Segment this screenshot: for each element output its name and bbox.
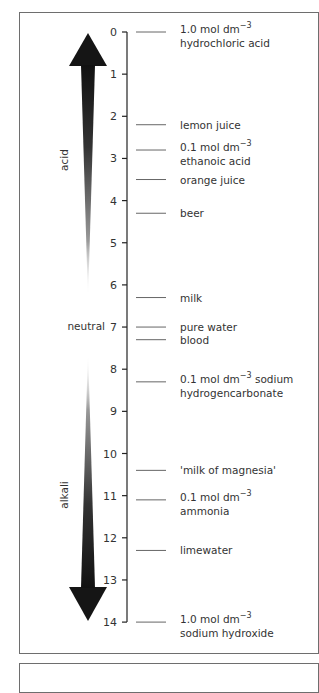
- tick-label: 12: [103, 532, 117, 545]
- ph-example-item: 1.0 mol dm−3sodium hydroxide: [136, 611, 274, 639]
- example-label: lemon juice: [180, 119, 241, 131]
- example-label: milk: [180, 292, 203, 304]
- example-label: 1.0 mol dm−3: [180, 21, 252, 35]
- ph-example-item: 0.1 mol dm−3ethanoic acid: [136, 139, 252, 167]
- tick-label: 14: [103, 616, 117, 629]
- tick-label: 7: [110, 321, 117, 334]
- example-label-line2: hydrochloric acid: [180, 37, 270, 49]
- tick-label: 2: [110, 110, 117, 123]
- ph-example-item: beer: [136, 207, 205, 219]
- example-label: beer: [180, 207, 205, 219]
- tick-label: 8: [110, 363, 117, 376]
- tick-label: 1: [110, 68, 117, 81]
- example-label-line2: hydrogencarbonate: [180, 387, 283, 399]
- tick-label: 10: [103, 448, 117, 461]
- ph-example-item: 0.1 mol dm−3 sodiumhydrogencarbonate: [136, 371, 293, 399]
- tick-label: 9: [110, 405, 117, 418]
- ph-example-item: 0.1 mol dm−3ammonia: [136, 489, 252, 517]
- example-label-line2: sodium hydroxide: [180, 627, 274, 639]
- alkali-arrow-icon: [69, 350, 107, 621]
- ph-example-item: lemon juice: [136, 119, 241, 131]
- tick-label: 4: [110, 195, 117, 208]
- example-label: 0.1 mol dm−3: [180, 139, 252, 153]
- acid-arrow-icon: [69, 33, 107, 300]
- tick-label: 0: [110, 26, 117, 39]
- alkali-label: alkali: [58, 481, 70, 509]
- tick-label: 13: [103, 574, 117, 587]
- example-label: blood: [180, 334, 209, 346]
- ph-example-item: 'milk of magnesia': [136, 464, 276, 476]
- tick-label: 5: [110, 237, 117, 250]
- example-label: 0.1 mol dm−3 sodium: [180, 371, 293, 385]
- example-label-line2: ethanoic acid: [180, 155, 251, 167]
- tick-label: 11: [103, 490, 117, 503]
- ph-example-item: orange juice: [136, 174, 245, 186]
- ph-example-item: milk: [136, 292, 203, 304]
- ph-example-item: blood: [136, 334, 209, 346]
- ph-example-item: limewater: [136, 544, 233, 556]
- tick-label: 6: [110, 279, 117, 292]
- example-label: pure water: [180, 321, 238, 333]
- ph-example-item: pure water: [136, 321, 238, 333]
- acid-label: acid: [58, 149, 70, 171]
- ph-examples: 1.0 mol dm−3hydrochloric acidlemon juice…: [136, 21, 293, 639]
- example-label: limewater: [180, 544, 233, 556]
- ph-example-item: 1.0 mol dm−3hydrochloric acid: [136, 21, 270, 49]
- example-label-line2: ammonia: [180, 505, 229, 517]
- example-label: 1.0 mol dm−3: [180, 611, 252, 625]
- ph-ticks: 01234567891011121314: [103, 26, 127, 629]
- example-label: 'milk of magnesia': [180, 464, 276, 476]
- neutral-label: neutral: [67, 320, 105, 332]
- example-label: 0.1 mol dm−3: [180, 489, 252, 503]
- example-label: orange juice: [180, 174, 245, 186]
- tick-label: 3: [110, 152, 117, 165]
